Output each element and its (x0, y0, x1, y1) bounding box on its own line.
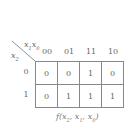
karnaugh-map-grid: 0 0 1 0 0 1 1 1 (35, 61, 124, 108)
kmap-cell: 1 (80, 62, 102, 85)
function-label: f(x2, x1, x0) (56, 112, 99, 123)
column-header: 11 (80, 47, 102, 56)
kmap-cell: 0 (36, 62, 58, 85)
kmap-cell: 0 (36, 85, 58, 108)
row-variable-label: x2 (11, 51, 19, 62)
kmap-cell: 1 (58, 85, 80, 108)
column-header: 10 (102, 47, 124, 56)
row-header: 1 (21, 90, 31, 99)
kmap-cell: 0 (58, 62, 80, 85)
kmap-cell: 1 (80, 85, 102, 108)
column-header: 00 (36, 47, 58, 56)
kmap-cell: 1 (102, 85, 124, 108)
column-header: 01 (58, 47, 80, 56)
kmap-cell: 0 (102, 62, 124, 85)
row-header: 0 (21, 67, 31, 76)
